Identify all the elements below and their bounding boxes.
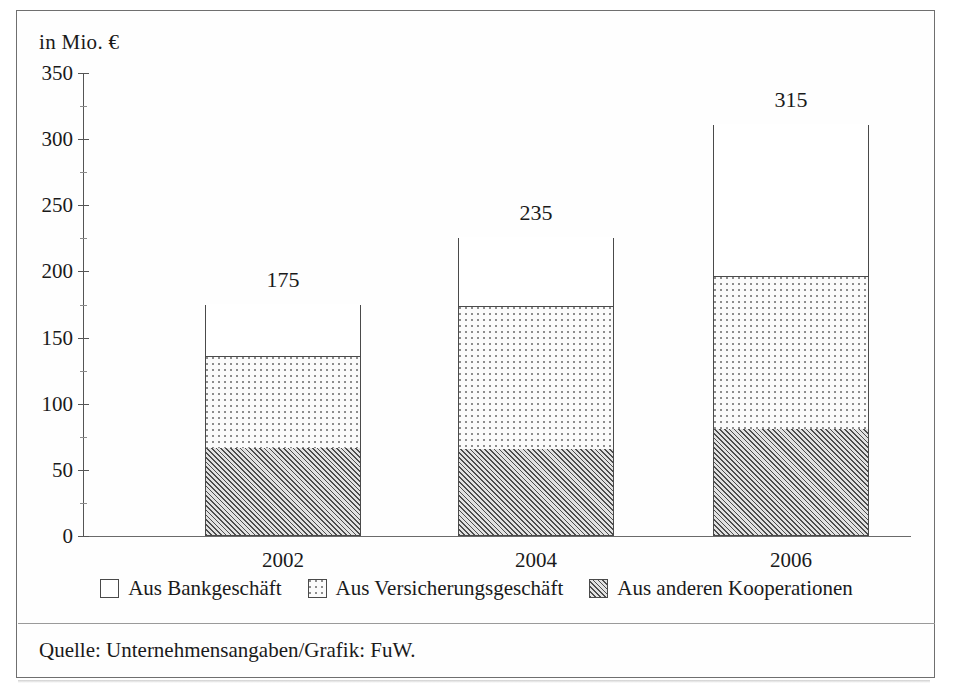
y-axis-minor-tick <box>80 106 87 107</box>
source-note: Quelle: Unternehmensangaben/Grafik: FuW. <box>39 638 416 663</box>
bar-segment-koop <box>206 448 360 535</box>
bar-total-label: 235 <box>476 200 596 226</box>
bar-segment-vers <box>206 356 360 447</box>
x-axis-baseline <box>83 536 911 537</box>
bar-segment-koop <box>714 429 868 535</box>
y-axis-tick-label: 100 <box>25 391 73 416</box>
bar-2002 <box>205 305 361 537</box>
y-axis-minor-tick <box>80 437 87 438</box>
y-axis-minor-tick <box>80 238 87 239</box>
chart-legend: Aus BankgeschäftAus Versicherungsgeschäf… <box>17 576 936 601</box>
legend-label: Aus Bankgeschäft <box>128 576 281 601</box>
source-separator <box>18 623 935 624</box>
y-axis-minor-tick <box>80 305 87 306</box>
x-axis-category-label-2004: 2004 <box>456 548 616 573</box>
y-axis-tick-label: 50 <box>25 457 73 482</box>
hatched-square-icon <box>589 579 608 598</box>
x-axis-category-label-2002: 2002 <box>203 548 363 573</box>
y-axis-tick-label: 350 <box>25 61 73 86</box>
y-axis-tick-mark <box>78 338 89 339</box>
y-axis-tick-label: 150 <box>25 325 73 350</box>
y-axis-tick-label: 0 <box>25 524 73 549</box>
bar-segment-vers <box>459 306 613 449</box>
legend-item-bank: Aus Bankgeschäft <box>100 576 281 601</box>
y-axis-tick-mark <box>78 536 89 537</box>
bar-segment-bank <box>206 304 360 357</box>
bar-total-label: 315 <box>731 87 851 113</box>
legend-label: Aus anderen Kooperationen <box>617 576 853 601</box>
y-axis-tick-label: 300 <box>25 127 73 152</box>
y-axis-tick-mark <box>78 139 89 140</box>
y-axis-minor-tick <box>80 371 87 372</box>
bar-segment-vers <box>714 276 868 429</box>
dotted-square-icon <box>308 579 327 598</box>
x-axis-category-label-2006: 2006 <box>711 548 871 573</box>
bar-segment-bank <box>459 237 613 306</box>
y-axis-tick-mark <box>78 73 89 74</box>
chart-frame: in Mio. € 350300250200150100500 17520022… <box>16 10 935 678</box>
bar-segment-bank <box>714 124 868 276</box>
legend-item-koop: Aus anderen Kooperationen <box>589 576 853 601</box>
bar-2006 <box>713 125 869 536</box>
y-axis-minor-tick <box>80 503 87 504</box>
bar-2004 <box>458 238 614 536</box>
y-axis-minor-tick <box>80 172 87 173</box>
y-axis-tick-mark <box>78 470 89 471</box>
y-axis-tick-label: 250 <box>25 193 73 218</box>
bar-total-label: 175 <box>223 267 343 293</box>
white-square-icon <box>100 579 119 598</box>
chart-plot-area: in Mio. € 350300250200150100500 17520022… <box>17 11 936 679</box>
y-axis-tick-mark <box>78 404 89 405</box>
y-axis-tick-mark <box>78 205 89 206</box>
bar-segment-koop <box>459 449 613 535</box>
y-axis-tick-label: 200 <box>25 259 73 284</box>
legend-item-vers: Aus Versicherungsgeschäft <box>308 576 564 601</box>
scan-shadow <box>18 680 930 683</box>
legend-label: Aus Versicherungsgeschäft <box>336 576 564 601</box>
y-axis-tick-mark <box>78 271 89 272</box>
